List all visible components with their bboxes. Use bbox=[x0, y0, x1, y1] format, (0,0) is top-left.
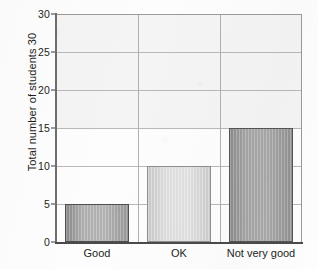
bar-ok[interactable] bbox=[147, 166, 211, 242]
bar-good-texture bbox=[66, 205, 128, 241]
gridline-y-25 bbox=[56, 52, 302, 53]
y-axis-line bbox=[55, 13, 57, 244]
plot-frame-right bbox=[301, 14, 302, 243]
x-axis-line bbox=[55, 242, 303, 244]
y-tick-label-10: 10 bbox=[28, 160, 50, 172]
gridline-x-2 bbox=[220, 14, 221, 242]
y-tick-label-15: 15 bbox=[28, 122, 50, 134]
y-axis-tick-labels: 0 5 10 15 20 25 30 bbox=[28, 0, 50, 269]
y-tick-label-20: 20 bbox=[28, 84, 50, 96]
bar-not-very-good-texture bbox=[230, 129, 292, 241]
gridline-y-20 bbox=[56, 90, 302, 91]
y-tick-label-5: 5 bbox=[28, 198, 50, 210]
bar-not-very-good[interactable] bbox=[229, 128, 293, 242]
x-tick-label-good: Good bbox=[56, 247, 138, 259]
x-tick-label-not-very-good: Not very good bbox=[220, 247, 302, 259]
y-tick-label-25: 25 bbox=[28, 46, 50, 58]
y-tick-label-0: 0 bbox=[28, 236, 50, 248]
gridline-x-1 bbox=[138, 14, 139, 242]
bar-ok-texture bbox=[148, 167, 210, 241]
plot-area bbox=[56, 14, 302, 242]
bar-chart: Total number of students 30 0 5 10 15 20… bbox=[0, 0, 318, 269]
x-tick-label-ok: OK bbox=[138, 247, 220, 259]
plot-frame-top bbox=[56, 14, 302, 15]
bar-good[interactable] bbox=[65, 204, 129, 242]
y-tick-label-30: 30 bbox=[28, 8, 50, 20]
